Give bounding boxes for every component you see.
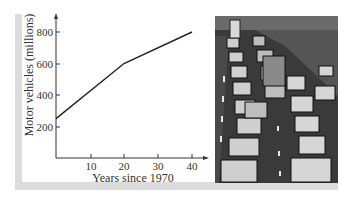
y-axis-label: Motor vehicles (millions)	[22, 14, 36, 137]
x-tick-label: 40	[187, 160, 199, 172]
line-chart: 200 400 600 800 10 20 30 40 Years since …	[0, 0, 215, 198]
highway-traffic-image	[215, 16, 338, 183]
traffic-photo	[215, 16, 338, 183]
y-tick-label: 200	[37, 121, 54, 133]
x-ticks: 10 20 30 40	[86, 154, 199, 172]
y-tick-label: 400	[37, 89, 54, 101]
y-axis-arrow-icon	[54, 13, 58, 19]
y-tick-label: 800	[37, 26, 54, 38]
x-axis-label: Years since 1970	[92, 171, 173, 185]
x-axis-arrow-icon	[203, 156, 209, 160]
y-tick-label: 600	[37, 58, 54, 70]
data-series-line	[56, 32, 192, 119]
